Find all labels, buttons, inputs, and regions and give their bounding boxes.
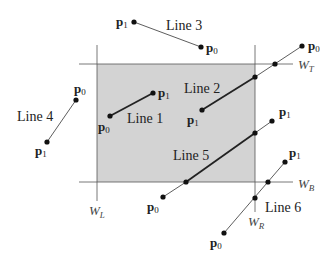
line-2-label: Line 2 (184, 81, 220, 96)
boundary-right-label: WR (248, 214, 265, 231)
line-2-p0-label: p0 (308, 38, 320, 54)
line-clipping-diagram: Line 1 Line 2 Line 3 Line 4 Line 5 Line … (0, 0, 333, 263)
line-4-p1-label: p1 (35, 143, 47, 159)
line-6-p0-label: p0 (210, 235, 222, 251)
boundary-top-label: WT (298, 57, 315, 74)
line-4-p0-label: p0 (74, 81, 86, 97)
line-3-label: Line 3 (166, 18, 202, 33)
line-6-p1-label: p1 (289, 145, 301, 161)
boundary-bottom-label: WB (298, 176, 315, 193)
line-6-label: Line 6 (265, 200, 301, 215)
clip-window (97, 64, 255, 182)
line-5-p1-label: p1 (279, 104, 291, 120)
line-5-label: Line 5 (173, 148, 209, 163)
line-1-label: Line 1 (127, 111, 163, 126)
line-5-p0-label: p0 (147, 199, 159, 215)
line-3-p1-label: p1 (116, 14, 128, 30)
line-4-label: Line 4 (17, 109, 53, 124)
boundary-left-label: WL (89, 203, 105, 220)
line-3-p0-label: p0 (206, 40, 218, 56)
